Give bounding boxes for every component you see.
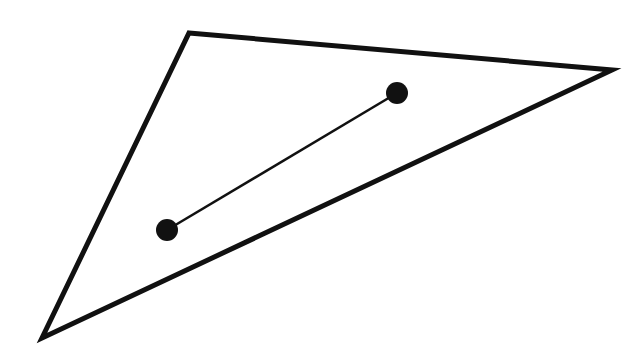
triangle — [42, 33, 612, 338]
segment-endpoint-end — [386, 82, 408, 104]
diagram-canvas — [0, 0, 639, 358]
segment-endpoint-start — [156, 219, 178, 241]
line-segment — [167, 93, 397, 230]
